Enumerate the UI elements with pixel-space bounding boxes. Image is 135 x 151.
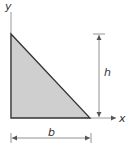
base-label: b bbox=[48, 126, 55, 139]
triangle-shape bbox=[11, 34, 90, 118]
triangle-diagram: y x h b bbox=[0, 0, 135, 151]
x-axis-label: x bbox=[118, 112, 126, 125]
height-label: h bbox=[104, 66, 111, 79]
y-axis-label: y bbox=[4, 0, 12, 13]
